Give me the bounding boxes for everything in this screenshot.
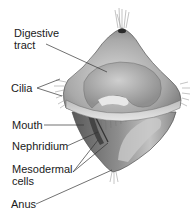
label-cilia: Cilia bbox=[11, 82, 32, 94]
label-mesodermal-cells-line1: Mesodermal bbox=[12, 163, 73, 175]
leader-mesodermal-1 bbox=[73, 140, 98, 172]
label-digestive-tract-line1: Digestive bbox=[14, 27, 59, 39]
label-mouth: Mouth bbox=[12, 119, 43, 131]
leader-cilia-2 bbox=[37, 88, 62, 96]
apical-tuft-icon bbox=[115, 8, 129, 28]
leader-anus bbox=[36, 170, 112, 204]
label-nephridium: Nephridium bbox=[12, 140, 68, 152]
label-digestive-tract-line2: tract bbox=[14, 39, 35, 51]
leader-cilia-1 bbox=[37, 79, 60, 88]
trochophore-diagram: Digestive tract Cilia Mouth Nephridium M… bbox=[0, 0, 195, 222]
label-anus: Anus bbox=[11, 198, 36, 210]
apical-pore-icon bbox=[118, 29, 126, 33]
label-mesodermal-cells-line2: cells bbox=[12, 175, 34, 187]
